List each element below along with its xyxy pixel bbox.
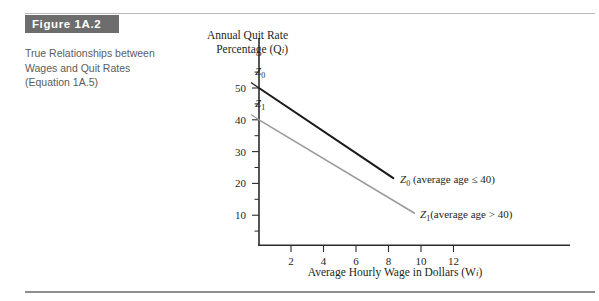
y-tick-label-40: 40: [235, 114, 247, 126]
figure-caption-block: Figure 1A.2 True Relationships between W…: [25, 14, 165, 90]
y-axis-tick-labels: 50 40 30 20 10: [235, 82, 247, 221]
x-axis-title-main: Average Hourly Wage in Dollars (W: [308, 266, 476, 278]
y-tick-label-20: 20: [235, 177, 247, 189]
series-legend-z0-text: (average age ≤ 40): [410, 173, 495, 186]
bottom-divider-rule: [25, 291, 595, 293]
x-axis-ticks: [291, 245, 454, 252]
y-axis-title-line1: Annual Quit Rate: [207, 29, 288, 41]
y-axis-title-close: ): [284, 43, 288, 55]
plot-svg: 50 40 30 20 10 2 4 6 8 10 12: [170, 20, 590, 282]
series-label-z0-axis-sub: 0: [261, 71, 265, 80]
y-axis-title-line2: Percentage (Q: [216, 43, 281, 55]
series-label-z0-axis: Z0: [255, 65, 265, 80]
x-axis-title: Average Hourly Wage in Dollars (Wi): [225, 266, 565, 278]
y-tick-label-30: 30: [235, 146, 247, 158]
series-label-z1-axis: Z1: [255, 97, 265, 112]
x-axis-title-close: ): [478, 266, 482, 278]
series-legend-z0: Z0 (average age ≤ 40): [400, 173, 495, 188]
series-label-z1-axis-sub: 1: [261, 103, 265, 112]
chart-area: Annual Quit Rate Percentage (Qi) 50 40 3…: [170, 20, 590, 282]
series-line-z0: [259, 88, 394, 179]
series-legend-z1: Z1(average age > 40): [420, 208, 513, 223]
series-z0-pointer: [251, 83, 259, 89]
figure-caption-text: True Relationships between Wages and Qui…: [25, 46, 157, 90]
y-axis-ticks: [252, 72, 259, 231]
series-legend-z1-text: (average age > 40): [430, 208, 513, 221]
series-z1-pointer: [251, 115, 259, 120]
series-line-z1: [259, 120, 415, 214]
figure-number-banner: Figure 1A.2: [25, 15, 119, 33]
y-tick-label-10: 10: [235, 209, 247, 221]
y-axis-title: Annual Quit Rate Percentage (Qi): [170, 28, 288, 57]
y-tick-label-50: 50: [235, 82, 247, 94]
